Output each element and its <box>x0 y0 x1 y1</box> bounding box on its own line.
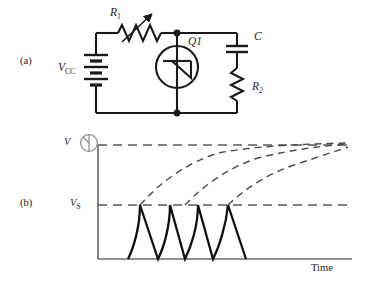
component-label-q1: Q1 <box>188 36 202 48</box>
charging-envelope-curve-3 <box>228 147 348 205</box>
sawtooth-capacitor-voltage <box>128 205 246 259</box>
circuit-schematic <box>84 14 248 116</box>
component-label-vcc-subscript: CC <box>65 67 75 76</box>
component-label-vcc: VCC <box>58 62 75 74</box>
component-label-vcc-text: V <box>58 61 65 73</box>
transistor-q1-arrow <box>172 61 191 78</box>
component-label-r2-text: R <box>252 80 259 92</box>
component-label-r2: R2 <box>252 81 263 93</box>
junction-dot-bottom <box>174 110 181 117</box>
charging-envelope-curve-1 <box>140 143 348 205</box>
x-axis-label-time: Time <box>311 263 333 274</box>
panel-label-b: (b) <box>20 198 32 209</box>
threshold-label-subscript: S <box>76 202 80 211</box>
junction-dot-top <box>174 30 181 37</box>
charging-envelope-curve-2 <box>185 144 348 205</box>
marker-diagonal-stroke <box>83 137 89 143</box>
panel-label-a: (a) <box>20 56 32 67</box>
component-label-r1-subscript: 1 <box>117 12 121 21</box>
figure-root <box>0 0 368 282</box>
capacitor-c-symbol <box>226 46 248 52</box>
component-label-r2-subscript: 2 <box>259 86 263 95</box>
component-label-r1-text: R <box>110 6 117 18</box>
resistor-r2-zigzag <box>231 68 243 101</box>
component-label-c: C <box>254 31 262 43</box>
battery-vcc-symbol <box>84 55 108 85</box>
waveform-plot <box>81 134 352 259</box>
voltage-axis-marker-icon <box>81 134 98 152</box>
threshold-label-vs: VS <box>70 198 81 209</box>
component-label-r1: R1 <box>110 7 121 19</box>
y-axis-label-v: V <box>64 137 70 148</box>
